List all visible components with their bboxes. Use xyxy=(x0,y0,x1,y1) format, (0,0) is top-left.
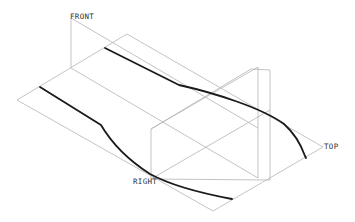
model-viewport[interactable] xyxy=(0,0,355,222)
right-datum-plane-top xyxy=(151,67,258,129)
front-datum-plane[interactable] xyxy=(71,18,258,178)
front-datum-plane-edge xyxy=(71,18,258,128)
right-plane-label: RIGHT xyxy=(133,178,157,186)
top-plane-label: TOP xyxy=(324,143,338,151)
front-plane-label: FRONT xyxy=(70,13,94,21)
upper-curve[interactable] xyxy=(105,48,306,158)
right-datum-plane-diag xyxy=(151,110,270,179)
top-datum-plane[interactable] xyxy=(17,34,323,211)
